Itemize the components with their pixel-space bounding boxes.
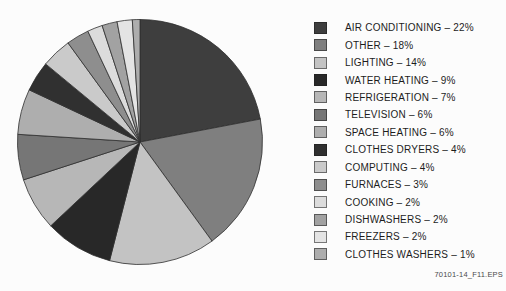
legend-swatch-television — [314, 109, 327, 121]
legend-item-refrigeration: REFRIGERATION – 7% — [314, 89, 475, 106]
legend-swatch-other — [314, 39, 327, 51]
legend-item-water-heating: WATER HEATING – 9% — [314, 71, 475, 88]
legend-label-space-heating: SPACE HEATING – 6% — [345, 127, 454, 138]
appliance-energy-pie-figure: AIR CONDITIONING – 22%OTHER – 18%LIGHTIN… — [0, 0, 506, 291]
legend-label-dishwashers: DISHWASHERS – 2% — [345, 214, 448, 225]
legend-swatch-clothes-dryers — [314, 144, 327, 156]
legend-label-freezers: FREEZERS – 2% — [345, 231, 427, 242]
legend-swatch-clothes-washers — [314, 248, 327, 260]
legend-item-cooking: COOKING – 2% — [314, 193, 475, 210]
legend-item-space-heating: SPACE HEATING – 6% — [314, 124, 475, 141]
legend-item-dishwashers: DISHWASHERS – 2% — [314, 211, 475, 228]
legend-label-water-heating: WATER HEATING – 9% — [345, 75, 456, 86]
figure-file-label: 70101-14_F11.EPS — [434, 270, 503, 279]
legend-swatch-computing — [314, 161, 327, 173]
legend-swatch-freezers — [314, 231, 327, 243]
legend-swatch-refrigeration — [314, 91, 327, 103]
legend-swatch-furnaces — [314, 179, 327, 191]
legend-label-air-conditioning: AIR CONDITIONING – 22% — [345, 22, 474, 33]
legend-swatch-dishwashers — [314, 214, 327, 226]
legend-item-clothes-dryers: CLOTHES DRYERS – 4% — [314, 141, 475, 158]
legend-item-freezers: FREEZERS – 2% — [314, 228, 475, 245]
legend-label-clothes-dryers: CLOTHES DRYERS – 4% — [345, 144, 466, 155]
legend-item-air-conditioning: AIR CONDITIONING – 22% — [314, 19, 475, 36]
legend-item-other: OTHER – 18% — [314, 36, 475, 53]
legend-label-other: OTHER – 18% — [345, 40, 413, 51]
legend-swatch-water-heating — [314, 74, 327, 86]
legend-label-clothes-washers: CLOTHES WASHERS – 1% — [345, 249, 475, 260]
legend-item-furnaces: FURNACES – 3% — [314, 176, 475, 193]
legend-item-computing: COMPUTING – 4% — [314, 159, 475, 176]
legend-swatch-lighting — [314, 57, 327, 69]
legend-label-cooking: COOKING – 2% — [345, 197, 420, 208]
legend: AIR CONDITIONING – 22%OTHER – 18%LIGHTIN… — [314, 19, 475, 263]
legend-item-television: TELEVISION – 6% — [314, 106, 475, 123]
legend-swatch-cooking — [314, 196, 327, 208]
legend-label-computing: COMPUTING – 4% — [345, 162, 434, 173]
pie-chart — [0, 0, 292, 291]
legend-swatch-space-heating — [314, 126, 327, 138]
legend-item-lighting: LIGHTING – 14% — [314, 54, 475, 71]
legend-label-lighting: LIGHTING – 14% — [345, 57, 426, 68]
legend-label-television: TELEVISION – 6% — [345, 109, 432, 120]
legend-swatch-air-conditioning — [314, 22, 327, 34]
legend-label-furnaces: FURNACES – 3% — [345, 179, 428, 190]
legend-label-refrigeration: REFRIGERATION – 7% — [345, 92, 456, 103]
legend-item-clothes-washers: CLOTHES WASHERS – 1% — [314, 246, 475, 263]
